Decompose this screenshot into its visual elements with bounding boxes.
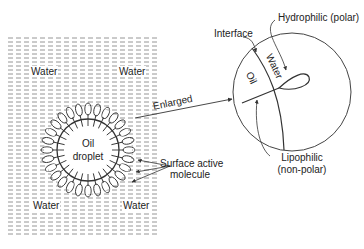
water-label-top-right: Water: [118, 66, 146, 77]
droplet-label-droplet: droplet: [66, 151, 110, 162]
surfactant-diagram: Water Water Water Water Oil droplet Surf…: [0, 0, 364, 249]
interface-label: Interface: [214, 28, 253, 39]
diagram-graphics: [0, 0, 364, 249]
lipophilic-label-line2: (non-polar): [272, 164, 332, 175]
enlarged-view-circle: [233, 33, 351, 151]
surfactant-label-line1: Surface active: [160, 158, 223, 169]
hydrophilic-label: Hydrophilic (polar): [278, 12, 359, 23]
water-label-bottom-right: Water: [122, 200, 150, 211]
lipophilic-label-line1: Lipophilic: [272, 152, 332, 163]
surfactant-label-line2: molecule: [170, 169, 210, 180]
water-label-top-left: Water: [30, 66, 58, 77]
droplet-label-oil: Oil: [66, 138, 110, 149]
water-label-bottom-left: Water: [32, 200, 60, 211]
